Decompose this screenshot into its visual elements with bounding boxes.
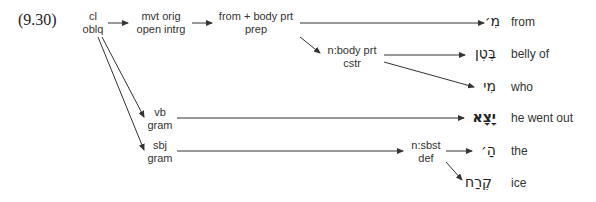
edge-sbst-ice xyxy=(446,162,462,180)
edge-prep-body xyxy=(300,37,320,53)
node-root: cl oblq xyxy=(80,10,106,36)
node-body-line1: n:body prt xyxy=(324,44,380,57)
gloss-went-out: he went out xyxy=(511,111,573,125)
node-body-line2: cstr xyxy=(324,57,380,70)
example-number: (9.30) xyxy=(18,11,57,29)
node-sbst-line1: n:sbst xyxy=(406,139,446,152)
hebrew-word-ice: קֶרַח xyxy=(465,174,492,190)
node-mvt: mvt orig open intrg xyxy=(132,10,190,36)
hebrew-word-from: מִ׳ xyxy=(485,13,500,29)
node-vb-line2: gram xyxy=(146,119,174,132)
node-sbst-line2: def xyxy=(406,152,446,165)
node-root-line1: cl xyxy=(80,10,106,23)
node-sbst: n:sbst def xyxy=(406,139,446,165)
node-prep-line1: from + body prt xyxy=(216,10,296,23)
hebrew-word-the: הַ׳ xyxy=(481,142,496,158)
node-root-line2: oblq xyxy=(80,23,106,36)
hebrew-word-who: מִי xyxy=(483,78,496,94)
edge-root-sbj xyxy=(98,37,144,150)
node-sbj: sbj gram xyxy=(146,139,174,165)
node-prep: from + body prt prep xyxy=(216,10,296,36)
edge-root-vb xyxy=(102,37,144,117)
node-mvt-line2: open intrg xyxy=(132,23,190,36)
edge-body-who xyxy=(384,62,474,87)
node-prep-line2: prep xyxy=(216,23,296,36)
node-mvt-line1: mvt orig xyxy=(132,10,190,23)
node-sbj-line1: sbj xyxy=(146,139,174,152)
gloss-from: from xyxy=(511,15,535,29)
gloss-ice: ice xyxy=(511,176,526,190)
gloss-belly: belly of xyxy=(511,47,549,61)
node-sbj-line2: gram xyxy=(146,152,174,165)
node-vb-line1: vb xyxy=(146,106,174,119)
node-body: n:body prt cstr xyxy=(324,44,380,70)
node-vb: vb gram xyxy=(146,106,174,132)
gloss-who: who xyxy=(511,80,533,94)
gloss-the: the xyxy=(511,144,528,158)
hebrew-word-belly: בֶּטֶן xyxy=(475,45,496,61)
hebrew-word-went-out: יָצָא xyxy=(473,109,496,125)
